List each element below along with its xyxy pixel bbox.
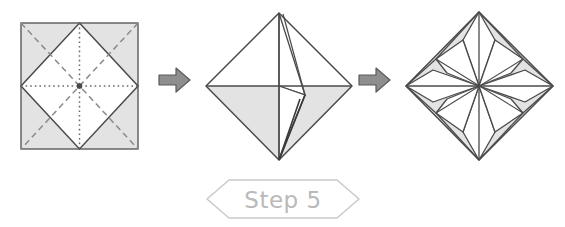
step-banner: Step 5 [203,176,363,222]
arrow-glyph [159,68,190,92]
step-banner-svg: Step 5 [203,176,363,222]
arrow-step-1-to-2 [155,60,195,100]
step-figure-3 [395,0,565,175]
center-point-marker [77,84,82,89]
diamond-flap-svg [195,0,365,175]
eight-point-star-svg [395,0,565,175]
step-figure-1 [0,0,160,175]
instruction-stage: Step 5 [0,0,565,227]
banner-label: Step 5 [244,187,321,213]
step-figure-2 [195,0,365,175]
crease-pattern-svg [0,0,160,175]
arrow-step-2-to-3 [355,60,395,100]
block-arrow-right-icon-2 [355,60,395,100]
arrow-glyph-2 [359,68,390,92]
block-arrow-right-icon [155,60,195,100]
